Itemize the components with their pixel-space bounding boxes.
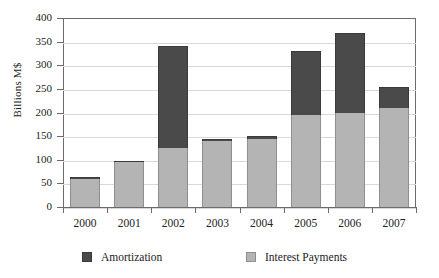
bar-segment-interest-payments (291, 115, 321, 207)
x-axis-tick (107, 207, 108, 213)
y-axis-tick-label: 200 (0, 107, 52, 118)
bar-segment-amortization (291, 51, 321, 115)
x-axis-tick (284, 207, 285, 213)
bar-segment-interest-payments (158, 148, 188, 207)
chart-container: Billions M$ 050100150200250300350400 200… (0, 0, 439, 278)
y-axis-tick-label: 100 (0, 154, 52, 165)
bar-segment-interest-payments (379, 108, 409, 207)
x-axis-tick-label: 2003 (192, 217, 242, 229)
bar-segment-interest-payments (114, 162, 144, 207)
x-axis-tick (328, 207, 329, 213)
bar-segment-interest-payments (335, 113, 365, 208)
legend-item-interest-payments[interactable]: Interest Payments (246, 248, 347, 266)
x-axis-tick-label: 2005 (281, 217, 331, 229)
bar-segment-interest-payments (70, 179, 100, 207)
bar-2003[interactable] (202, 139, 232, 208)
light-gray-swatch-icon (246, 252, 256, 262)
x-axis-tick-label: 2000 (60, 217, 110, 229)
bar-segment-amortization (335, 33, 365, 112)
bar-segment-interest-payments (202, 141, 232, 207)
bar-segment-interest-payments (247, 139, 277, 208)
bar-series-group (63, 18, 416, 207)
bar-2000[interactable] (70, 177, 100, 207)
x-axis-tick-label: 2007 (369, 217, 419, 229)
bar-2007[interactable] (379, 87, 409, 207)
x-axis-tick (63, 207, 64, 213)
bar-segment-amortization (158, 46, 188, 148)
x-axis-tick-label: 2002 (148, 217, 198, 229)
legend-label-interest-payments: Interest Payments (265, 251, 347, 263)
bar-2004[interactable] (247, 136, 277, 207)
y-axis-tick-label: 0 (0, 201, 52, 212)
x-axis-tick-label: 2004 (237, 217, 287, 229)
x-axis-tick-label: 2006 (325, 217, 375, 229)
bar-2001[interactable] (114, 161, 144, 207)
x-axis-tick (195, 207, 196, 213)
x-axis-tick (240, 207, 241, 213)
x-axis-tick (372, 207, 373, 213)
bar-segment-amortization (379, 87, 409, 108)
x-axis-tick (151, 207, 152, 213)
legend-item-amortization[interactable]: Amortization (82, 248, 162, 266)
y-axis-tick-label: 150 (0, 130, 52, 141)
y-axis-tick-label: 300 (0, 59, 52, 70)
bar-2002[interactable] (158, 46, 188, 207)
dark-gray-swatch-icon (82, 252, 92, 262)
y-axis-tick-label: 50 (0, 177, 52, 188)
legend-label-amortization: Amortization (101, 251, 162, 263)
chart-legend: Amortization Interest Payments (0, 248, 439, 270)
bar-2005[interactable] (291, 51, 321, 207)
y-axis-tick-label: 250 (0, 83, 52, 94)
bar-2006[interactable] (335, 33, 365, 207)
x-axis-tick-label: 2001 (104, 217, 154, 229)
x-axis-tick (416, 207, 417, 213)
y-axis-tick-label: 350 (0, 36, 52, 47)
y-axis-tick-label: 400 (0, 12, 52, 23)
